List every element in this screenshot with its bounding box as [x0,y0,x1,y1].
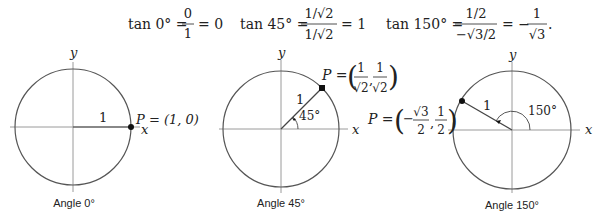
tan150-numerator-2: 1 [533,6,541,21]
svg-text:P =: P = [321,67,348,83]
x-label: x [585,122,593,137]
equation-tan-0: tan 0° = 0 1 = 0 [128,6,223,41]
caption: Angle 150° [485,199,539,211]
equation-tan-45: tan 45° = 1/√2 1/√2 = 1 [240,6,366,42]
y-label: y [277,45,286,60]
tan150-denominator-2: √3 [529,27,546,42]
y-label: y [508,47,517,62]
radius-label: 1 [483,98,491,113]
angle-label: 45° [299,109,320,123]
tan45-lhs: tan 45° = [240,16,308,32]
tan0-lhs: tan 0° = [128,16,188,32]
svg-text:): ) [388,60,399,93]
angle-arc [496,111,530,130]
point-label: P = (1, 0) [135,112,199,127]
tan45-denominator: 1/√2 [304,27,333,42]
svg-text:√3: √3 [413,105,428,119]
svg-text:2: 2 [417,123,425,137]
svg-text:): ) [447,104,458,137]
point-p [319,85,325,91]
tan0-rhs: = 0 [198,16,223,32]
point-label: P = ( − √3 2 , 1 2 ) [367,104,458,137]
unit-circle-45deg: y x 1 45° P = ( 1 √2 , 1 √2 ) Angle 45° [219,45,399,209]
tan150-denominator: −√3/2 [456,27,496,42]
point-p [459,98,465,104]
svg-text:2: 2 [437,123,445,137]
point-p [128,124,134,130]
tan150-numerator: 1/2 [466,6,487,21]
radius-label: 1 [296,92,304,107]
tan0-denominator: 1 [184,26,192,41]
unit-circle-figure: tan 0° = 0 1 = 0 tan 45° = 1/√2 1/√2 = 1… [0,0,602,220]
svg-text:√2: √2 [353,81,368,95]
tan45-numerator: 1/√2 [304,6,333,21]
unit-circle-150deg: y x 1 150° P = ( − √3 2 , 1 2 ) Angle 15… [367,47,593,211]
svg-text:P =: P = [367,111,394,127]
tan45-rhs: = 1 [341,16,366,32]
tan150-period: . [548,16,552,32]
svg-text:,: , [430,115,434,130]
svg-text:1: 1 [376,61,384,75]
equation-tan-150: tan 150° = 1/2 −√3/2 = − 1 √3 . [386,6,552,42]
tan0-numerator: 0 [184,6,192,21]
tan150-mid: = − [502,16,530,32]
x-label: x [352,122,360,137]
svg-text:√2: √2 [372,81,387,95]
svg-text:1: 1 [357,61,365,75]
angle-label: 150° [528,104,557,118]
y-label: y [69,45,78,60]
point-label: P = ( 1 √2 , 1 √2 ) [321,60,399,95]
unit-circle-0deg: y x 1 P = (1, 0) Angle 0° [10,45,199,209]
caption: Angle 45° [257,197,305,209]
tan150-lhs: tan 150° = [386,16,463,32]
svg-text:1: 1 [437,105,445,119]
radius-label: 1 [99,110,107,125]
svg-text:−: − [403,111,414,126]
caption: Angle 0° [53,197,95,209]
